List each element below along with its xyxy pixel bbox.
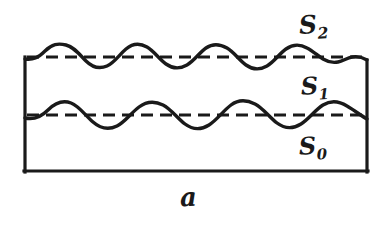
figure-canvas: S2 S1 S0 a (0, 0, 382, 229)
middle-interface-label-base: S (300, 71, 319, 101)
lower-region-label: S0 (298, 133, 327, 163)
lower-region-label-base: S (298, 131, 317, 161)
middle-interface-label: S1 (300, 73, 329, 103)
middle-interface-label-subscript: 1 (318, 85, 329, 104)
lower-region-label-subscript: 0 (316, 145, 327, 164)
upper-interface-label-base: S (298, 10, 318, 40)
upper-interface-label: S2 (298, 11, 329, 42)
width-dimension-label: a (180, 184, 198, 211)
upper-interface-label-subscript: 2 (317, 23, 329, 43)
